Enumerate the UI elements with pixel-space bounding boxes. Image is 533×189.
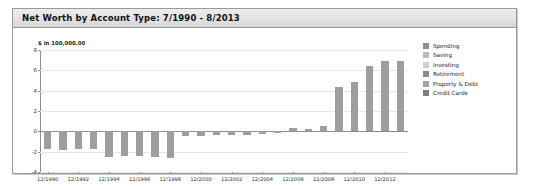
- bar[interactable]: [243, 131, 250, 135]
- legend-swatch-icon: [423, 90, 429, 96]
- chart-legend: SpendingSavingInvestingRetirementPropert…: [423, 41, 515, 98]
- bar[interactable]: [90, 131, 97, 148]
- bar[interactable]: [228, 131, 235, 135]
- x-tick-label: 12/2000: [190, 176, 212, 182]
- x-tick-mark: [293, 172, 294, 174]
- y-tick-label: -4: [32, 169, 37, 175]
- panel-title-bar: Net Worth by Account Type: 7/1990 - 8/20…: [13, 9, 516, 28]
- bar[interactable]: [289, 128, 296, 131]
- x-tick-mark: [324, 172, 325, 174]
- bar[interactable]: [44, 131, 51, 148]
- y-axis-unit-label: $ in 100,000.00: [38, 40, 85, 46]
- x-tick-mark: [262, 172, 263, 174]
- legend-swatch-icon: [423, 71, 429, 77]
- chart-body: $ in 100,000.00 86420-2-4 12/199012/1992…: [13, 28, 516, 173]
- legend-swatch-icon: [423, 43, 429, 49]
- bar[interactable]: [305, 129, 312, 132]
- x-tick-label: 12/1998: [160, 176, 182, 182]
- legend-item-label: Saving: [433, 52, 452, 58]
- y-tick-mark: [38, 50, 40, 51]
- gridline: [40, 50, 408, 51]
- bar[interactable]: [167, 131, 174, 157]
- y-tick-mark: [38, 111, 40, 112]
- bar[interactable]: [213, 131, 220, 135]
- x-tick-mark: [354, 172, 355, 174]
- x-tick-label: 12/1992: [68, 176, 90, 182]
- bar[interactable]: [197, 131, 204, 136]
- chart-panel: Net Worth by Account Type: 7/1990 - 8/20…: [12, 8, 517, 174]
- y-tick-mark: [38, 131, 40, 132]
- y-tick-mark: [38, 172, 40, 173]
- legend-item-label: Credit Cards: [433, 90, 468, 96]
- y-tick-mark: [38, 152, 40, 153]
- legend-item-label: Investing: [433, 62, 459, 68]
- bar[interactable]: [274, 131, 281, 133]
- y-tick-mark: [38, 91, 40, 92]
- x-tick-label: 12/2006: [282, 176, 304, 182]
- legend-item[interactable]: Investing: [423, 60, 515, 69]
- bar[interactable]: [121, 131, 128, 156]
- x-tick-label: 12/1996: [129, 176, 151, 182]
- y-tick-label: 2: [34, 108, 37, 114]
- x-tick-mark: [109, 172, 110, 174]
- bar[interactable]: [351, 82, 358, 132]
- legend-item[interactable]: Spending: [423, 41, 515, 50]
- legend-item[interactable]: Retirement: [423, 70, 515, 79]
- legend-item-label: Spending: [433, 43, 459, 49]
- legend-swatch-icon: [423, 52, 429, 58]
- x-tick-label: 12/2010: [344, 176, 366, 182]
- bar[interactable]: [366, 66, 373, 131]
- page-title: Net Worth by Account Type: 7/1990 - 8/20…: [13, 13, 240, 23]
- x-tick-mark: [201, 172, 202, 174]
- gridline: [40, 152, 408, 153]
- legend-item-label: Property & Debt: [433, 81, 478, 87]
- y-tick-mark: [38, 70, 40, 71]
- legend-swatch-icon: [423, 81, 429, 87]
- x-tick-mark: [385, 172, 386, 174]
- x-tick-label: 12/1990: [37, 176, 59, 182]
- x-tick-mark: [48, 172, 49, 174]
- bar[interactable]: [182, 131, 189, 136]
- x-tick-mark: [170, 172, 171, 174]
- bar[interactable]: [136, 131, 143, 155]
- bar[interactable]: [259, 131, 266, 134]
- x-tick-label: 12/2008: [313, 176, 335, 182]
- gridline: [40, 172, 408, 173]
- bar[interactable]: [397, 61, 404, 131]
- y-tick-label: 0: [34, 128, 37, 134]
- x-tick-mark: [140, 172, 141, 174]
- legend-item-label: Retirement: [433, 71, 464, 77]
- legend-item[interactable]: Property & Debt: [423, 79, 515, 88]
- bar[interactable]: [381, 61, 388, 131]
- bar[interactable]: [151, 131, 158, 156]
- gridline: [40, 70, 408, 71]
- x-tick-label: 12/2002: [221, 176, 243, 182]
- x-tick-mark: [232, 172, 233, 174]
- y-tick-label: 6: [34, 67, 37, 73]
- bar[interactable]: [105, 131, 112, 156]
- bar[interactable]: [320, 126, 327, 132]
- x-tick-label: 12/1994: [98, 176, 120, 182]
- x-tick-mark: [78, 172, 79, 174]
- legend-swatch-icon: [423, 62, 429, 68]
- bar[interactable]: [59, 131, 66, 149]
- y-tick-label: 4: [34, 88, 37, 94]
- bar[interactable]: [335, 87, 342, 132]
- plot-area: 86420-2-4 12/199012/199212/199412/199612…: [40, 50, 408, 172]
- x-tick-label: 12/2012: [374, 176, 396, 182]
- legend-item[interactable]: Credit Cards: [423, 89, 515, 98]
- y-tick-label: -2: [32, 149, 37, 155]
- bar[interactable]: [75, 131, 82, 149]
- legend-item[interactable]: Saving: [423, 51, 515, 60]
- x-tick-label: 12/2004: [252, 176, 274, 182]
- y-tick-label: 8: [34, 47, 37, 53]
